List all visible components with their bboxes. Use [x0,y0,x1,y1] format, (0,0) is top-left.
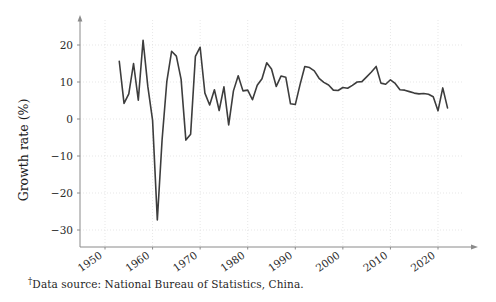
y-axis-title: Growth rate (%) [16,99,31,202]
y-tick-label: −10 [51,150,73,162]
x-tick-label: 1970 [171,249,200,274]
y-axis-arrow-icon [78,15,83,22]
x-tick-label: 1990 [266,249,295,274]
y-tick-labels: −30−20−1001020 [51,39,80,236]
x-tick-label: 2000 [313,249,342,274]
x-tick-label: 1950 [75,249,104,274]
footnote-text: Data source: National Bureau of Statisti… [32,278,303,290]
y-tick-label: 10 [60,76,73,88]
x-axis-arrow-icon [471,244,478,249]
x-tick-labels: 19501960197019801990200020102020 [75,247,438,274]
chart-figure: 19501960197019801990200020102020 −30−20−… [0,0,496,302]
growth-rate-line-chart: 19501960197019801990200020102020 −30−20−… [0,0,496,302]
y-axis [78,15,83,247]
x-axis [80,244,478,249]
gridlines [80,20,464,247]
y-tick-label: −30 [51,224,73,236]
x-tick-label: 2010 [361,249,390,274]
x-tick-label: 1960 [123,249,152,274]
footnote: †Data source: National Bureau of Statist… [28,278,304,290]
x-tick-label: 1980 [218,249,247,274]
x-tick-label: 2020 [408,249,437,274]
y-tick-label: 0 [66,113,73,125]
y-tick-label: 20 [60,39,73,51]
y-tick-label: −20 [51,187,73,199]
